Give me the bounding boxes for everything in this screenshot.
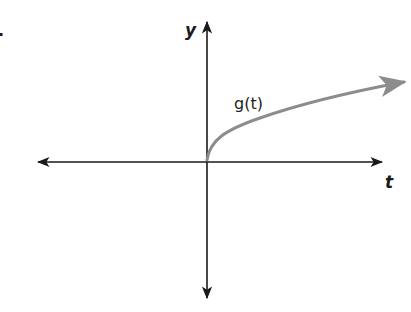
function-label: g(t) — [234, 94, 263, 113]
t-axis-label: t — [385, 172, 394, 192]
item-marker: . — [0, 21, 4, 40]
y-axis-label: y — [185, 20, 197, 40]
graph: . y t g(t) — [0, 0, 411, 312]
